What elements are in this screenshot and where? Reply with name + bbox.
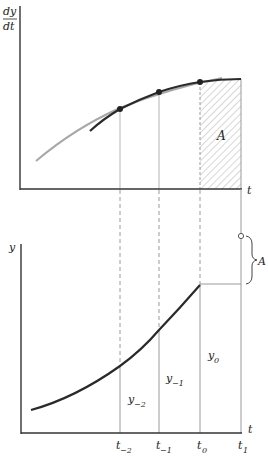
lower-y-axis-label: y xyxy=(8,241,16,254)
data-point-t-1 xyxy=(156,89,162,95)
lower-panel: A y t y −2 y −1 y 0 t −2 t −1 t xyxy=(8,233,266,455)
data-point-t0 xyxy=(197,79,203,85)
upper-y-axis-label-numerator: dy xyxy=(3,5,17,18)
svg-text:−1: −1 xyxy=(160,446,172,455)
brace-icon xyxy=(246,236,257,284)
upper-y-axis-label-denominator: dt xyxy=(3,20,15,33)
svg-text:1: 1 xyxy=(243,446,248,455)
upper-panel: dy dt t A xyxy=(3,5,252,197)
adams-bashforth-diagram: dy dt t A A y t y −2 xyxy=(0,0,268,460)
connector-lines xyxy=(120,189,241,433)
predicted-point-y1 xyxy=(238,233,243,238)
svg-text:−1: −1 xyxy=(172,379,184,388)
ordinate-label-y0: y 0 xyxy=(207,349,219,365)
ordinate-label-y-1: y −1 xyxy=(165,372,184,388)
tick-label-t1: t 1 xyxy=(238,439,248,455)
svg-text:0: 0 xyxy=(214,356,219,365)
ordinate-label-y-2: y −2 xyxy=(127,393,146,409)
true-derivative-curve xyxy=(36,78,222,161)
brace-a-label: A xyxy=(257,255,266,268)
solution-curve xyxy=(31,285,200,410)
upper-x-axis-label: t xyxy=(247,184,252,197)
svg-text:−2: −2 xyxy=(120,446,132,455)
area-a-label: A xyxy=(216,129,226,143)
tick-label-t0: t 0 xyxy=(197,439,207,455)
data-point-t-2 xyxy=(117,106,123,112)
svg-text:−2: −2 xyxy=(134,400,146,409)
tick-label-t-1: t −1 xyxy=(156,439,172,455)
tick-label-t-2: t −2 xyxy=(116,439,132,455)
svg-text:0: 0 xyxy=(202,446,207,455)
lower-x-axis-label: t xyxy=(248,423,253,436)
